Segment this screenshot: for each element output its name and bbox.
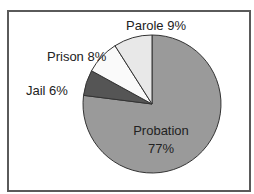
- label-prison: Prison 8%: [47, 50, 106, 64]
- label-probation-name: Probation: [126, 124, 196, 138]
- label-parole: Parole 9%: [126, 19, 186, 33]
- label-jail: Jail 6%: [26, 84, 68, 98]
- label-probation-value: 77%: [126, 142, 196, 156]
